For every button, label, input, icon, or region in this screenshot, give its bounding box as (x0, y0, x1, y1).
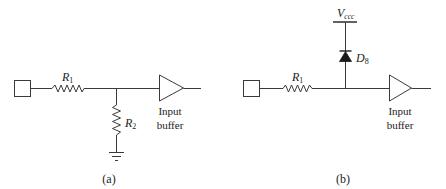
input-pad-icon (15, 81, 31, 97)
ground-icon (109, 153, 124, 161)
panel-a: R1 R2 Input buffer (a) (15, 70, 202, 186)
buffer-label-a-line1: Input (158, 105, 181, 117)
r1-label-a: R1 (61, 70, 73, 85)
resistor-r2-icon (113, 105, 121, 135)
input-pad-icon (244, 81, 260, 97)
input-buffer-icon (160, 75, 184, 101)
circuit-diagram: R1 R2 Input buffer (a) Vccc D8 R1 Input … (0, 0, 446, 189)
r2-label: R2 (124, 116, 136, 131)
r1-label-b: R1 (291, 70, 303, 85)
caption-b: (b) (336, 172, 350, 186)
panel-b: Vccc D8 R1 Input buffer (b) (244, 6, 432, 186)
input-buffer-icon (390, 75, 412, 101)
buffer-label-b-line1: Input (388, 105, 411, 117)
caption-a: (a) (102, 172, 115, 186)
vcc-label: Vccc (337, 6, 355, 21)
buffer-label-a-line2: buffer (157, 119, 184, 131)
resistor-r1-icon (283, 85, 312, 92)
diode-d8-icon (340, 51, 352, 62)
buffer-label-b-line2: buffer (387, 119, 414, 131)
resistor-r1-icon (52, 85, 84, 92)
d8-label: D8 (355, 51, 369, 66)
